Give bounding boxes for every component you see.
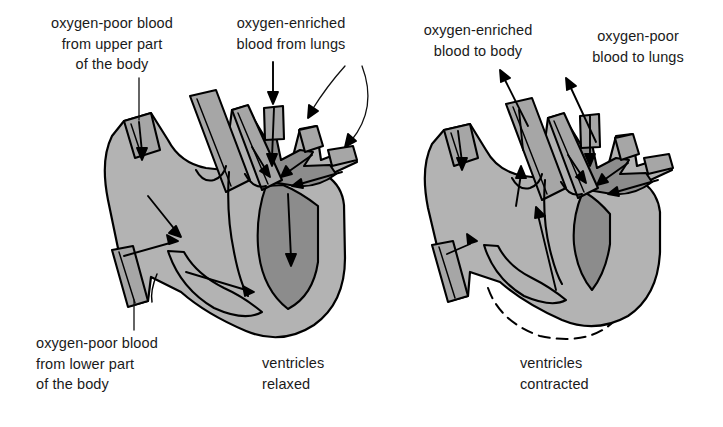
leader-pv-straight xyxy=(268,62,278,104)
leader-pv-curve-2 xyxy=(345,66,368,147)
leader-pv-curve-1 xyxy=(308,66,345,118)
figure-canvas: oxygen-poor blood from upper part of the… xyxy=(0,0,723,427)
heart-diagram-relaxed xyxy=(0,0,723,427)
